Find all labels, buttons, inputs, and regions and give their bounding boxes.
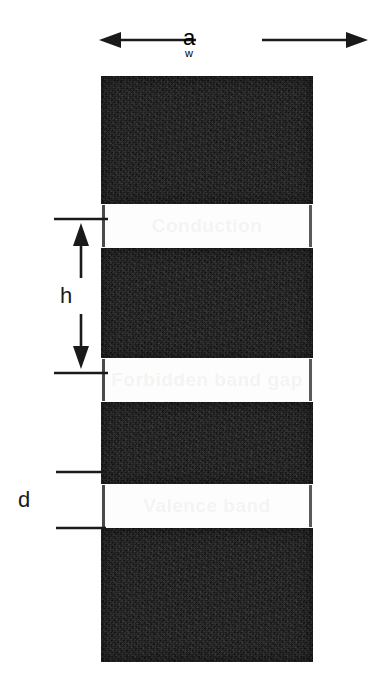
light-gap-band: Conduction (101, 204, 313, 248)
ghost-text: Valence band (101, 495, 313, 517)
dimension-a-sublabel: w (183, 49, 195, 58)
dimension-a-label-group: a w (183, 28, 195, 58)
ghost-text: Conduction (101, 215, 313, 237)
dark-layer-band (101, 248, 313, 358)
dimension-a-label: a (183, 28, 195, 48)
dimension-d: d (10, 468, 115, 532)
dimension-h: h (46, 216, 116, 376)
ghost-text: Forbidden band gap (101, 369, 313, 391)
dark-layer-band (101, 528, 313, 662)
band-right-edge-tick (309, 359, 312, 401)
dark-layer-band (101, 402, 313, 484)
dimension-a: a w (0, 26, 378, 74)
light-gap-band: Forbidden band gap (101, 358, 313, 402)
dimension-d-label: d (18, 489, 30, 511)
band-right-edge-tick (309, 205, 312, 247)
dimension-h-label: h (60, 285, 72, 307)
dark-layer-band (101, 76, 313, 204)
layer-stack: ConductionForbidden band gapValence band (101, 76, 313, 662)
light-gap-band: Valence band (101, 484, 313, 528)
dimension-h-arrows (46, 216, 116, 376)
layered-structure-diagram: ConductionForbidden band gapValence band… (0, 0, 378, 693)
band-right-edge-tick (309, 485, 312, 527)
